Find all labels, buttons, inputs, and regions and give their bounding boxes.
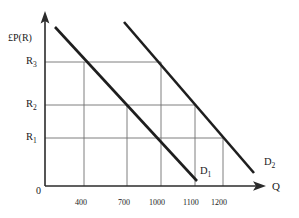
y-tick-label-R3: R3 — [26, 56, 37, 67]
chart-canvas — [0, 0, 299, 218]
y-tick-sub-R2: 2 — [33, 103, 37, 112]
demand-curve-figure: £P(R) Q 0 R3 R2 R1 400 700 1000 1100 120… — [0, 0, 299, 218]
y-tick-base-R2: R — [26, 98, 33, 109]
curve-label-d2-sub: 2 — [272, 161, 276, 170]
demand-curve-d2 — [124, 22, 254, 173]
y-tick-sub-R3: 3 — [33, 60, 37, 69]
curve-label-d1-sub: 1 — [208, 170, 212, 179]
curve-label-d2: D2 — [264, 157, 275, 168]
y-tick-sub-R1: 1 — [33, 136, 37, 145]
demand-curve-d1 — [55, 27, 197, 181]
curve-label-d1: D1 — [200, 166, 211, 177]
x-tick-label-1200: 1200 — [211, 199, 227, 207]
x-tick-label-700: 700 — [118, 199, 130, 207]
x-tick-label-1100: 1100 — [183, 199, 199, 207]
horizontal-gridlines — [45, 62, 223, 138]
y-tick-base-R1: R — [26, 131, 33, 142]
x-tick-label-1000: 1000 — [149, 199, 165, 207]
y-tick-base-R3: R — [26, 55, 33, 66]
x-axis-label: Q — [272, 181, 280, 192]
y-tick-label-R1: R1 — [26, 132, 37, 143]
origin-label: 0 — [36, 186, 41, 196]
y-axis-label: £P(R) — [8, 33, 32, 43]
curve-label-d1-base: D — [200, 165, 208, 176]
curve-label-d2-base: D — [264, 156, 272, 167]
y-tick-label-R2: R2 — [26, 99, 37, 110]
x-tick-label-400: 400 — [75, 199, 87, 207]
